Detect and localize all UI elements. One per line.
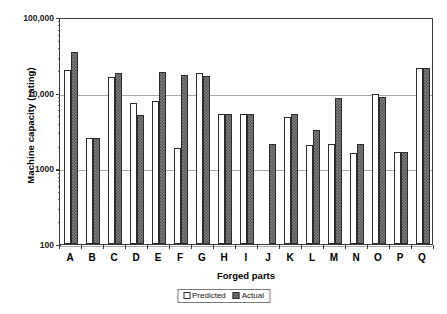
x-tick-label: O [367, 252, 389, 263]
y-tick-label: 1000 [2, 165, 54, 174]
bar-chart: Machine capacity (rating) 100,00010,0001… [0, 0, 447, 314]
bar-predicted [328, 144, 335, 244]
legend-label: Actual [242, 291, 264, 300]
x-axis-title: Forged parts [59, 270, 433, 281]
x-tick-label: C [103, 252, 125, 263]
bar-actual [181, 75, 188, 244]
legend-label: Predicted [192, 291, 226, 300]
bar-group [258, 19, 280, 244]
x-tick-label: I [235, 252, 257, 263]
bar-actual [137, 115, 144, 244]
bar-predicted [416, 68, 423, 244]
bar-predicted [64, 70, 71, 244]
x-tick-label: Q [411, 252, 433, 263]
bar-group [412, 19, 434, 244]
bar-actual [71, 52, 78, 245]
bar-group [302, 19, 324, 244]
bar-actual [247, 114, 254, 244]
bar-predicted [240, 114, 247, 244]
bar-group [82, 19, 104, 244]
x-tick-mark [81, 245, 82, 249]
bar-predicted [284, 117, 291, 244]
bar-predicted [218, 114, 225, 244]
x-tick-mark [389, 245, 390, 249]
bar-group [214, 19, 236, 244]
x-tick-label: J [257, 252, 279, 263]
chart-legend: PredictedActual [177, 289, 270, 303]
x-tick-label: L [301, 252, 323, 263]
bar-predicted [306, 145, 313, 244]
bar-group [368, 19, 390, 244]
bar-group [346, 19, 368, 244]
x-tick-mark [103, 245, 104, 249]
x-tick-mark [147, 245, 148, 249]
bar-predicted [152, 101, 159, 244]
bar-group [104, 19, 126, 244]
plot-area [59, 18, 433, 245]
bar-predicted [174, 148, 181, 244]
x-tick-mark [59, 245, 60, 249]
bar-actual [93, 138, 100, 244]
x-tick-label: N [345, 252, 367, 263]
bar-group [126, 19, 148, 244]
bar-actual [203, 76, 210, 244]
x-tick-label: E [147, 252, 169, 263]
bar-actual [291, 114, 298, 244]
bar-actual [357, 144, 364, 244]
bar-actual [159, 72, 166, 244]
x-tick-mark [125, 245, 126, 249]
bars-layer [60, 19, 432, 244]
y-tick-label: 100,000 [2, 14, 54, 23]
x-tick-label: M [323, 252, 345, 263]
bar-predicted [108, 77, 115, 244]
x-tick-mark [191, 245, 192, 249]
bar-group [60, 19, 82, 244]
x-tick-mark [433, 245, 434, 249]
y-tick-label: 100 [2, 241, 54, 250]
x-tick-label: B [81, 252, 103, 263]
bar-actual [423, 68, 430, 244]
x-tick-mark [411, 245, 412, 249]
x-tick-mark [345, 245, 346, 249]
bar-actual [401, 152, 408, 244]
bar-actual [115, 73, 122, 244]
bar-predicted [372, 94, 379, 244]
bar-group [236, 19, 258, 244]
x-tick-label: P [389, 252, 411, 263]
bar-predicted [350, 153, 357, 244]
x-tick-mark [367, 245, 368, 249]
bar-actual [269, 144, 276, 244]
bar-group [280, 19, 302, 244]
x-tick-mark [257, 245, 258, 249]
x-tick-mark [169, 245, 170, 249]
x-tick-label: H [213, 252, 235, 263]
legend-swatch-actual [233, 292, 240, 299]
gridline [60, 246, 432, 247]
x-tick-label: G [191, 252, 213, 263]
bar-predicted [130, 103, 137, 244]
legend-swatch-predicted [183, 292, 190, 299]
bar-group [390, 19, 412, 244]
x-tick-label: D [125, 252, 147, 263]
bar-predicted [196, 73, 203, 244]
bar-group [324, 19, 346, 244]
bar-actual [335, 98, 342, 244]
x-tick-mark [323, 245, 324, 249]
y-axis-title: Machine capacity (rating) [25, 36, 36, 216]
x-tick-mark [301, 245, 302, 249]
bar-actual [379, 97, 386, 244]
bar-predicted [394, 152, 401, 244]
y-tick-label: 10,000 [2, 90, 54, 99]
bar-group [192, 19, 214, 244]
bar-predicted [86, 138, 93, 244]
bar-actual [313, 130, 320, 244]
bar-group [148, 19, 170, 244]
x-tick-mark [213, 245, 214, 249]
x-tick-label: A [59, 252, 81, 263]
bar-group [170, 19, 192, 244]
x-tick-label: F [169, 252, 191, 263]
legend-item: Predicted [183, 291, 226, 300]
legend-item: Actual [233, 291, 264, 300]
x-tick-mark [235, 245, 236, 249]
bar-actual [225, 114, 232, 244]
